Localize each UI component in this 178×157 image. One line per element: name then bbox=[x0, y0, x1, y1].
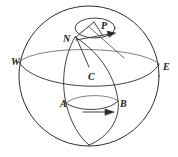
motion-arrow-equator-head bbox=[105, 109, 114, 115]
radius-C-to-N bbox=[76, 37, 89, 67]
label-B: B bbox=[120, 99, 127, 109]
latitude-circle-back-arc bbox=[66, 96, 118, 103]
segment-N-to-apex bbox=[76, 22, 94, 37]
meridian-curve-left bbox=[64, 37, 89, 145]
latitude-circle-front-arc bbox=[66, 101, 118, 110]
label-W: W bbox=[11, 57, 20, 67]
label-E: E bbox=[163, 62, 170, 72]
sphere-diagram-figure: N P C W E A B bbox=[0, 0, 178, 157]
meridian-curve-right bbox=[75, 37, 118, 145]
equator-back-arc bbox=[19, 49, 159, 64]
label-A: A bbox=[60, 99, 67, 109]
label-N: N bbox=[63, 34, 70, 44]
label-C: C bbox=[88, 72, 95, 82]
label-P: P bbox=[101, 21, 107, 31]
